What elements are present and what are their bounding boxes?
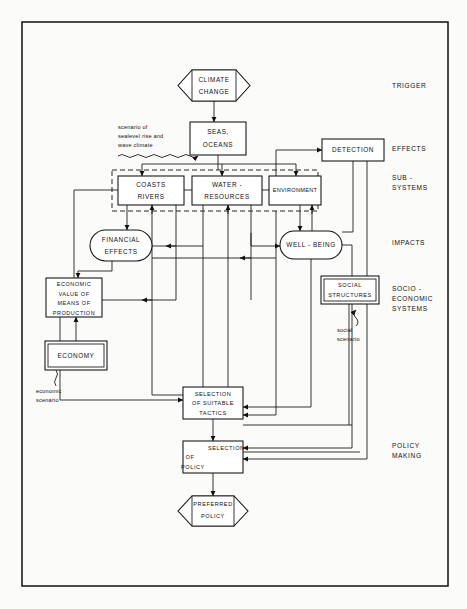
social-structures-label-2: STRUCTURES — [328, 292, 372, 298]
node-preferred-policy[interactable]: PREFERRED POLICY — [178, 496, 248, 526]
stage-label-socio-3: SYSTEMS — [392, 305, 428, 312]
node-environment[interactable]: ENVIRONMENT — [269, 176, 321, 205]
seas-oceans-label-1: SEAS, — [207, 128, 229, 135]
seas-oceans-label-2: OCEANS — [203, 141, 233, 148]
connector-wellbeing-right-down — [243, 245, 352, 425]
water-resources-label-2: RESOURCES — [204, 193, 249, 200]
water-resources-label-1: WATER - — [212, 181, 242, 188]
stage-label-trigger: TRIGGER — [392, 82, 426, 89]
climate-change-label-1: CLIMATE — [198, 76, 229, 83]
stage-label-subsystems-1: SUB - — [392, 174, 413, 181]
sealevel-scenario-line-3: wave climate — [117, 142, 153, 148]
selection-policy-label-1: SELECTION — [208, 445, 245, 451]
selection-tactics-label-2: OF SUITABLE — [192, 400, 234, 406]
preferred-policy-label-2: POLICY — [201, 513, 225, 519]
stage-label-policy-1: POLICY — [392, 442, 420, 449]
environment-label: ENVIRONMENT — [273, 187, 318, 193]
connector-right-spine — [243, 161, 367, 459]
coasts-rivers-label-1: COASTS — [136, 181, 166, 188]
stage-label-socio-1: SOCIO - — [392, 285, 421, 292]
node-coasts-rivers[interactable]: COASTS RIVERS — [118, 176, 184, 205]
climate-change-inner — [192, 70, 236, 101]
social-scenario-line-1: social — [337, 327, 353, 333]
node-detection[interactable]: DETECTION — [322, 139, 384, 161]
node-social-structures[interactable]: SOCIAL STRUCTURES — [321, 276, 379, 304]
annotation-economic-scenario: economic scenario — [36, 388, 62, 403]
node-water-resources[interactable]: WATER - RESOURCES — [192, 176, 262, 205]
economic-value-label-4: PRODUCTION — [53, 310, 95, 316]
stage-label-column: TRIGGER EFFECTS SUB - SYSTEMS IMPACTS SO… — [392, 82, 433, 459]
stage-label-policy-2: MAKING — [392, 452, 422, 459]
sealevel-scenario-line-2: sealevel rise and — [118, 133, 163, 139]
financial-effects-box — [90, 230, 152, 261]
node-financial-effects[interactable]: FINANCIAL EFFECTS — [90, 230, 152, 261]
economy-label: ECONOMY — [58, 352, 95, 359]
connector-financial-to-econvalue — [78, 261, 112, 278]
annotation-social-scenario: social scenario — [337, 327, 360, 342]
well-being-label: WELL - BEING — [286, 241, 335, 248]
node-economic-value[interactable]: ECONOMIC VALUE OF MEANS OF PRODUCTION — [46, 278, 102, 317]
connector-wellbeing-down-center — [243, 259, 311, 407]
financial-effects-label-2: EFFECTS — [105, 248, 138, 255]
stage-label-effects: EFFECTS — [392, 145, 426, 152]
node-selection-tactics[interactable]: SELECTION OF SUITABLE TACTICS — [183, 387, 243, 419]
connector-right-spine2 — [243, 425, 352, 448]
stage-label-subsystems-2: SYSTEMS — [392, 184, 428, 191]
connector-social-scenario — [354, 310, 358, 326]
stage-label-impacts: IMPACTS — [392, 239, 425, 246]
social-structures-label-1: SOCIAL — [338, 282, 362, 288]
selection-tactics-label-1: SELECTION — [195, 391, 232, 397]
sealevel-scenario-line-1: scenario of — [118, 124, 148, 130]
economic-value-label-2: VALUE OF — [58, 291, 89, 297]
connector-sealevel-scenario — [118, 155, 198, 158]
node-selection-policy[interactable]: SELECTION OF POLICY — [181, 441, 245, 473]
preferred-policy-label-1: PREFERRED — [193, 501, 232, 507]
annotation-sealevel-scenario: scenario of sealevel rise and wave clima… — [117, 124, 163, 148]
economic-scenario-line-1: economic — [36, 388, 62, 394]
financial-effects-label-1: FINANCIAL — [102, 236, 140, 243]
economic-value-label-1: ECONOMIC — [57, 281, 92, 287]
economic-scenario-line-2: scenario — [36, 397, 59, 403]
economic-value-label-3: MEANS OF — [57, 300, 90, 306]
selection-policy-label-3: POLICY — [181, 464, 205, 470]
node-seas-oceans[interactable]: SEAS, OCEANS — [190, 122, 246, 155]
detection-label: DETECTION — [332, 146, 374, 153]
diagram-page: CLIMATE CHANGE SEAS, OCEANS DETECTION CO… — [0, 0, 467, 609]
stage-label-socio-2: ECONOMIC — [392, 295, 433, 302]
node-climate-change[interactable]: CLIMATE CHANGE — [178, 70, 250, 101]
node-economy[interactable]: ECONOMY — [45, 341, 107, 370]
coasts-rivers-label-2: RIVERS — [137, 193, 164, 200]
selection-tactics-label-3: TACTICS — [199, 410, 226, 416]
climate-change-label-2: CHANGE — [199, 88, 230, 95]
social-scenario-line-2: scenario — [337, 336, 360, 342]
selection-policy-label-2: OF — [186, 454, 195, 460]
node-well-being[interactable]: WELL - BEING — [280, 231, 342, 259]
flowchart-canvas: CLIMATE CHANGE SEAS, OCEANS DETECTION CO… — [0, 0, 467, 609]
